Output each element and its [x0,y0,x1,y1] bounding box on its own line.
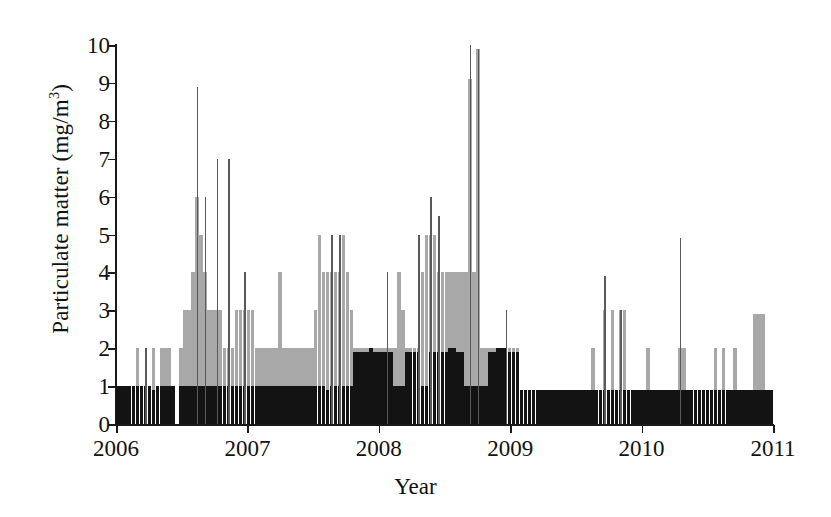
bar-maximum-spike [387,272,388,424]
bar-maximum-spike [197,87,198,424]
y-tick-label: 10 [78,34,110,57]
x-tick-label: 2006 [76,436,156,462]
bar-maximum-spike [339,235,340,425]
x-tick-mark [773,425,775,433]
bar-maximum-spike [430,197,431,424]
x-tick-mark [247,425,249,433]
y-tick-label: 4 [78,261,110,284]
bar-maximum-spike [478,49,479,424]
y-tick-mark [108,348,115,350]
y-tick-label: 0 [78,413,110,436]
x-tick-label: 2010 [602,436,682,462]
y-tick-label: 1 [78,375,110,398]
y-tick-mark [108,45,115,47]
bar-maximum-spike [217,159,218,424]
y-tick-mark [108,386,115,388]
plot-area [116,45,773,424]
y-tick-label: 2 [78,337,110,360]
bar-maximum-spike [331,235,332,425]
x-tick-mark [642,425,644,433]
y-tick-mark [108,83,115,85]
x-tick-label: 2007 [207,436,287,462]
y-axis-unit-exponent: 3 [46,92,62,99]
y-tick-mark [108,235,115,237]
bar-maximum-spike [438,216,439,424]
y-tick-label: 5 [78,223,110,246]
y-tick-mark [108,197,115,199]
y-tick-mark [108,272,115,274]
bar-maximum-spike [620,310,621,424]
bar-maximum-spike [228,159,229,424]
y-tick-label: 9 [78,71,110,94]
x-axis-line [115,424,774,426]
bar-maximum-spike [680,238,681,424]
x-tick-label: 2009 [470,436,550,462]
bar-lower [171,386,175,424]
bar-maximum-spike [205,197,206,424]
x-tick-mark [116,425,118,433]
y-tick-label: 6 [78,185,110,208]
x-axis-title: Year [0,474,831,500]
bar-maximum-spike [604,276,605,424]
bar-maximum-spike [470,45,471,424]
y-tick-label: 7 [78,147,110,170]
y-tick-mark [108,424,115,426]
bar-maximum-spike [244,272,245,424]
x-tick-mark [379,425,381,433]
bar-maximum-spike [506,310,507,424]
bar-maximum-spike [145,348,146,424]
x-tick-label: 2011 [733,436,813,462]
bar-lower [769,390,773,424]
y-tick-label: 3 [78,299,110,322]
y-tick-mark [108,121,115,123]
x-tick-mark [510,425,512,433]
chart-figure: Particulate matter (mg/m3) 109876543210 … [0,0,831,517]
bar-maximum-spike [418,235,419,425]
y-tick-label: 8 [78,109,110,132]
y-tick-mark [108,310,115,312]
y-tick-mark [108,159,115,161]
x-tick-label: 2008 [339,436,419,462]
